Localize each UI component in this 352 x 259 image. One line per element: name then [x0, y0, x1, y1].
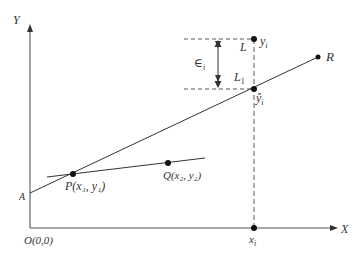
regression-error-diagram: Y X O(0,0) A P(x₁, y₁) Q(x₂, y₂) R yi ŷi…: [0, 0, 352, 259]
point-P: [70, 171, 76, 177]
point-R: [316, 55, 321, 60]
label-predicted-yhat: ŷi: [255, 91, 264, 107]
intercept-label: A: [18, 191, 26, 202]
label-R: R: [325, 49, 334, 64]
point-Q: [165, 160, 171, 166]
label-L1: L1: [233, 70, 245, 86]
label-xi: xi: [248, 233, 256, 248]
label-Q: Q(x₂, y₂): [163, 169, 202, 182]
label-L: L: [239, 40, 247, 54]
x-axis-label: X: [340, 222, 349, 236]
error-label: ∈i: [194, 56, 205, 72]
label-P: P(x₁, y₁): [64, 179, 105, 193]
y-axis-label: Y: [13, 13, 21, 27]
point-observed-yi: [251, 36, 257, 42]
label-observed-yi: yi: [259, 34, 268, 50]
error-arrow-head-top: [215, 40, 222, 47]
origin-label: O(0,0): [24, 234, 53, 247]
error-arrow-head-bottom: [215, 81, 222, 88]
point-xi: [251, 225, 257, 231]
